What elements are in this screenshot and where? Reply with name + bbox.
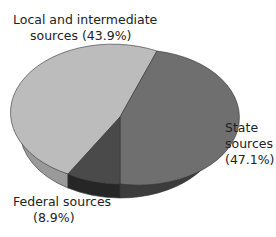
local-label-line1: Local and intermediate — [13, 12, 157, 28]
local-label-line2: sources (43.9%) — [13, 28, 157, 44]
state-label-line3: (47.1%) — [225, 152, 274, 168]
federal-label-line2: (8.9%) — [13, 210, 111, 226]
local-label: Local and intermediate sources (43.9%) — [13, 12, 157, 44]
state-label: State sources (47.1%) — [225, 120, 274, 168]
state-label-line1: State — [225, 120, 274, 136]
federal-label-line1: Federal sources — [13, 194, 111, 210]
state-label-line2: sources — [225, 136, 274, 152]
federal-label: Federal sources (8.9%) — [13, 194, 111, 226]
